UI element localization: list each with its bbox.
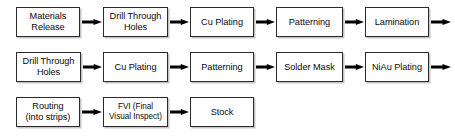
flowchart-row-1: Materials Release Drill Through Holes Cu… [0, 7, 455, 39]
flow-arrow-icon [170, 63, 189, 71]
node-label: Lamination [366, 17, 428, 28]
node-label: Cu Plating [191, 17, 253, 28]
node-label: Materials Release [17, 11, 79, 32]
flow-arrow-icon [170, 18, 189, 26]
flow-arrow-icon [83, 63, 102, 71]
process-node-niau-plating[interactable]: NiAu Plating [365, 52, 429, 82]
process-node-lamination[interactable]: Lamination [365, 7, 429, 37]
node-label: NiAu Plating [366, 62, 428, 73]
flow-arrow-icon [82, 18, 102, 26]
process-node-solder-mask[interactable]: Solder Mask [276, 52, 343, 82]
node-label: Stock [191, 107, 253, 118]
flow-arrow-icon [170, 108, 189, 116]
process-node-cu-plating-2[interactable]: Cu Plating [103, 52, 168, 82]
process-node-materials-release[interactable]: Materials Release [16, 7, 80, 37]
process-flowchart: Materials Release Drill Through Holes Cu… [0, 0, 455, 136]
process-node-patterning-2[interactable]: Patterning [190, 52, 254, 82]
node-label: Drill Through Holes [104, 11, 167, 32]
flow-arrow-icon [345, 63, 364, 71]
process-node-fvi[interactable]: FVI (Final Visual Inspect) [103, 97, 168, 127]
process-node-cu-plating-1[interactable]: Cu Plating [190, 7, 254, 37]
node-label: Patterning [277, 17, 342, 28]
flow-arrow-icon [256, 18, 275, 26]
flow-arrow-icon [256, 63, 275, 71]
flowchart-row-3: Routing (into strips) FVI (Final Visual … [0, 97, 455, 129]
process-node-routing[interactable]: Routing (into strips) [16, 97, 80, 127]
process-node-stock[interactable]: Stock [190, 97, 254, 127]
node-label: FVI (Final Visual Inspect) [104, 102, 167, 122]
flow-arrow-icon [345, 18, 364, 26]
flowchart-row-2: Drill Through Holes Cu Plating Patternin… [0, 52, 455, 84]
node-label: Cu Plating [104, 62, 167, 73]
process-node-drill-through-holes-2[interactable]: Drill Through Holes [16, 52, 81, 82]
node-label: Solder Mask [277, 62, 342, 73]
flow-arrow-wrap-icon [431, 63, 451, 71]
process-node-drill-through-holes-1[interactable]: Drill Through Holes [103, 7, 168, 37]
flow-arrow-icon [82, 108, 102, 116]
flow-arrow-wrap-icon [431, 18, 451, 26]
node-label: Routing (into strips) [17, 101, 79, 122]
process-node-patterning-1[interactable]: Patterning [276, 7, 343, 37]
node-label: Patterning [191, 62, 253, 73]
node-label: Drill Through Holes [17, 56, 80, 77]
